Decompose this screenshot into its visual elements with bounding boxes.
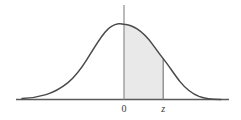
shaded-area-0-to-z (124, 24, 163, 99)
normal-distribution-figure: 0 z (0, 0, 241, 120)
bell-curve-path (22, 24, 221, 100)
distribution-chart-canvas: 0 z (0, 0, 241, 120)
axis-label-origin: 0 (122, 103, 127, 114)
axis-label-z: z (160, 103, 165, 114)
